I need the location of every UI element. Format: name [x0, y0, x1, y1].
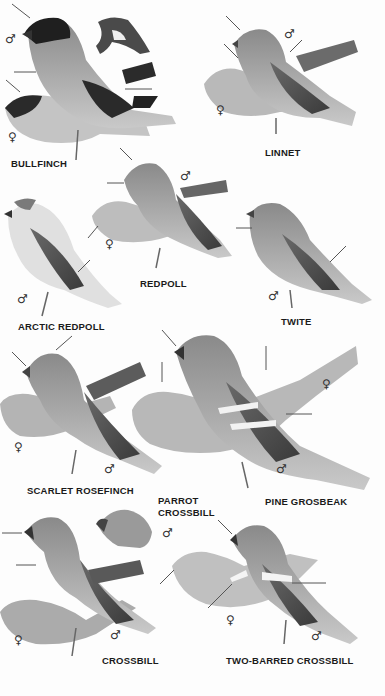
label-two-barred-crossbill: TWO-BARRED CROSSBILL: [226, 655, 354, 667]
male-symbol-icon: ♂: [311, 630, 322, 642]
label-parrot-crossbill-line2: CROSSBILL: [158, 507, 215, 519]
female-symbol-icon: ♀: [14, 634, 23, 646]
label-redpoll: REDPOLL: [140, 278, 187, 290]
label-crossbill: CROSSBILL: [102, 655, 159, 667]
two-barred-crossbill-illustration: [160, 520, 358, 644]
male-symbol-icon: ♂: [162, 527, 173, 539]
female-symbol-icon: ♀: [14, 441, 23, 453]
male-symbol-icon: ♂: [180, 170, 191, 182]
female-symbol-icon: ♀: [226, 614, 235, 626]
male-symbol-icon: ♂: [104, 463, 115, 475]
male-symbol-icon: ♂: [5, 33, 16, 45]
parrot-crossbill-illustration: [96, 510, 152, 548]
bird-illustrations: [0, 0, 385, 696]
male-symbol-icon: ♂: [110, 629, 121, 641]
label-arctic-redpoll: ARCTIC REDPOLL: [18, 321, 105, 333]
male-symbol-icon: ♂: [276, 463, 287, 475]
male-symbol-icon: ♂: [284, 28, 295, 40]
male-symbol-icon: ♂: [17, 293, 28, 305]
female-symbol-icon: ♀: [8, 131, 17, 143]
female-symbol-icon: ♀: [105, 238, 114, 250]
male-symbol-icon: ♂: [268, 290, 279, 302]
bird-plate: BULLFINCH LINNET REDPOLL ARCTIC REDPOLL …: [0, 0, 385, 696]
female-symbol-icon: ♀: [216, 104, 225, 116]
label-pine-grosbeak: PINE GROSBEAK: [265, 496, 347, 508]
label-scarlet-rosefinch: SCARLET ROSEFINCH: [27, 485, 134, 497]
twite-illustration: [236, 203, 372, 308]
label-parrot-crossbill-line1: PARROT: [158, 495, 199, 507]
pine-grosbeak-illustration: [132, 330, 370, 490]
bullfinch-illustration: [5, 4, 176, 160]
label-linnet: LINNET: [265, 147, 301, 159]
linnet-illustration: [204, 16, 358, 134]
label-twite: TWITE: [281, 316, 312, 328]
label-bullfinch: BULLFINCH: [11, 158, 67, 170]
female-symbol-icon: ♀: [322, 378, 331, 390]
